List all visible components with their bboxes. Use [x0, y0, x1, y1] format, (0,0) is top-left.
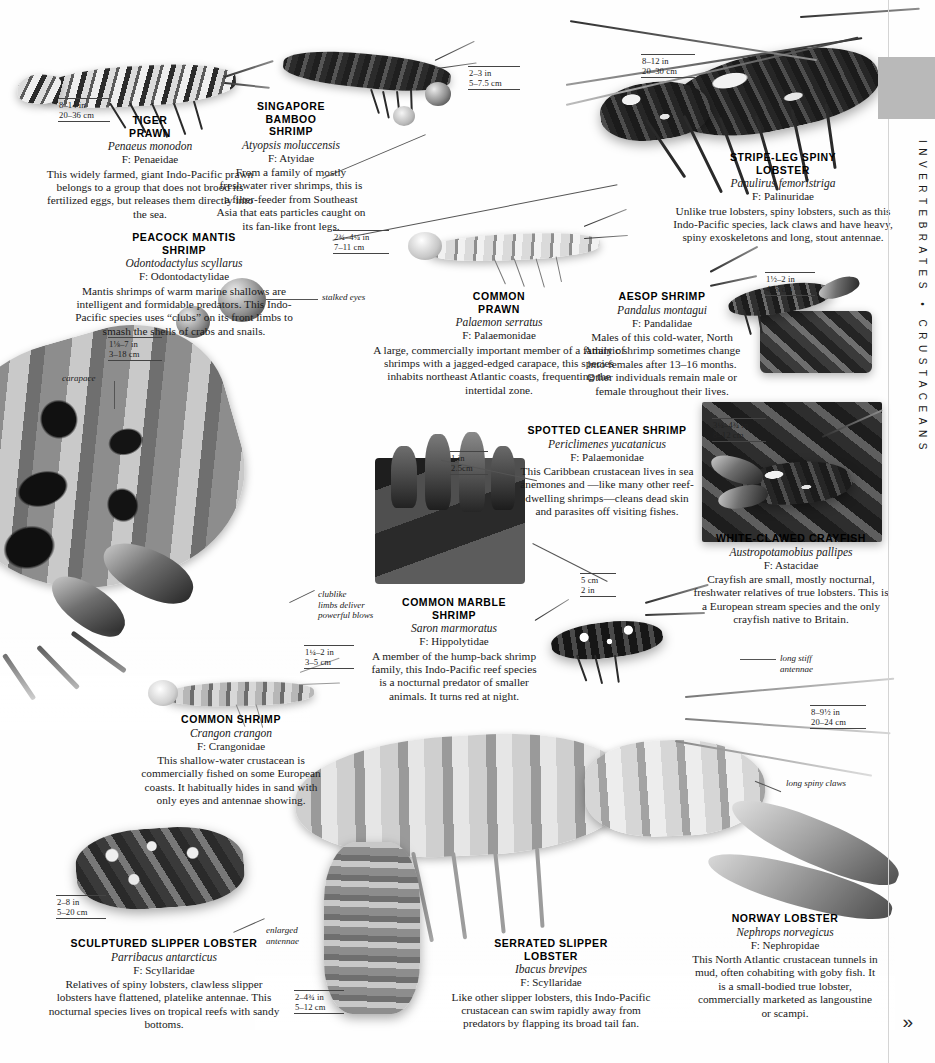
family-name: F: Odontodactylidae — [73, 270, 295, 283]
scale-singapore-bamboo-shrimp: 2–3 in 5–7.5 cm — [468, 66, 520, 90]
next-page-chevron-icon[interactable]: » — [902, 1012, 913, 1031]
entry-peacock-mantis-shrimp: PEACOCK MANTIS SHRIMP Odontodactylus scy… — [73, 231, 295, 338]
scale-metric: 5–20 cm — [56, 907, 106, 919]
scale-imperial: 2–8 in — [56, 896, 106, 907]
description: Unlike true lobsters, spiny lobsters, su… — [668, 205, 898, 245]
scale-metric: 20–24 cm — [810, 717, 866, 729]
entry-sculptured-slipper-lobster: SCULPTURED SLIPPER LOBSTER Parribacus an… — [48, 937, 280, 1032]
common-marble-shrimp-photo — [525, 600, 715, 690]
entry-aesop-shrimp: AESOP SHRIMP Pandalus montagui F: Pandal… — [578, 290, 746, 398]
scale-serrated-slipper-lobster: 2–4¾ in 5–12 cm — [294, 990, 344, 1014]
common-name: SCULPTURED SLIPPER LOBSTER — [48, 937, 280, 950]
family-name: F: Palaemonidae — [518, 451, 696, 464]
callout-carapace: carapace — [62, 373, 96, 384]
scientific-name: Odontodactylus scyllarus — [73, 257, 295, 270]
family-name: F: Scyllaridae — [48, 964, 280, 977]
scale-common-prawn: 2¾–4¼ in 7–11 cm — [333, 230, 389, 254]
callout-line: clublike — [318, 589, 373, 600]
scale-imperial: 1¼–2 in — [304, 646, 354, 657]
callout-line: long stiff — [780, 653, 813, 664]
scale-imperial: 8–14 in — [58, 99, 110, 110]
scale-common-shrimp: 1¼–2 in 3–5 cm — [304, 645, 354, 669]
scientific-name: Panulirus femoristriga — [668, 177, 898, 190]
common-name: SINGAPORE BAMBOO SHRIMP — [216, 100, 366, 138]
scale-white-clawed-crayfish: 3¼–4¾ in 8–12 cm — [712, 418, 766, 442]
common-name: STRIPE-LEG SPINY LOBSTER — [668, 151, 898, 176]
scientific-name: Atyopsis moluccensis — [216, 139, 366, 152]
callout-line: antennae — [780, 664, 813, 675]
callout-line: enlarged — [266, 925, 299, 936]
scale-metric: 2.5cm — [450, 463, 488, 475]
scale-stripe-leg-spiny-lobster: 8–12 in 20–30 cm — [641, 54, 695, 78]
description: From a family of mostly freshwater river… — [216, 166, 366, 233]
peacock-mantis-shrimp-photo — [0, 300, 310, 730]
entry-stripe-leg-spiny-lobster: STRIPE-LEG SPINY LOBSTER Panulirus femor… — [668, 151, 898, 245]
scale-imperial: 1½–2 in — [765, 273, 815, 284]
common-name: PEACOCK MANTIS SHRIMP — [73, 231, 295, 256]
callout-clublike-limbs: clublike limbs deliver powerful blows — [318, 589, 373, 621]
scale-imperial: 2–4¾ in — [294, 991, 344, 1002]
scientific-name: Periclimenes yucatanicus — [518, 438, 696, 451]
entry-spotted-cleaner-shrimp: SPOTTED CLEANER SHRIMP Periclimenes yuca… — [518, 424, 696, 519]
callout-long-spiny-claws: long spiny claws — [786, 778, 846, 789]
scientific-name: Nephrops norvegicus — [692, 926, 878, 939]
scientific-name: Ibacus brevipes — [448, 963, 654, 976]
callout-line: powerful blows — [318, 610, 373, 621]
scale-aesop-shrimp: 1½–2 in 4–5 cm — [765, 272, 815, 296]
scale-sculptured-slipper-lobster: 2–8 in 5–20 cm — [56, 895, 106, 919]
section-thumb-tab — [878, 57, 935, 119]
scale-spotted-cleaner-shrimp: 1 in 2.5cm — [450, 451, 488, 475]
scale-imperial: 8–12 in — [641, 55, 695, 66]
running-head: INVERTEBRATES • CRUSTACEANS — [917, 140, 928, 455]
leader-line-long-spiny-claws — [755, 781, 781, 792]
scale-imperial: 1⅛–7 in — [108, 338, 162, 349]
entry-serrated-slipper-lobster: SERRATED SLIPPER LOBSTER Ibacus brevipes… — [448, 937, 654, 1031]
common-name: COMMON SHRIMP — [140, 713, 322, 726]
common-name: COMMON MARBLE SHRIMP — [368, 596, 540, 621]
common-name: SPOTTED CLEANER SHRIMP — [518, 424, 696, 437]
scientific-name: Saron marmoratus — [368, 622, 540, 635]
callout-line: limbs deliver — [318, 600, 373, 611]
description: Mantis shrimps of warm marine shallows a… — [73, 285, 295, 339]
callout-line: long spiny claws — [786, 778, 846, 789]
entry-common-shrimp: COMMON SHRIMP Crangon crangon F: Crangon… — [140, 713, 322, 808]
encyclopedia-page: 8–14 in 20–36 cm 2–3 in 5–7.5 cm 8–12 in… — [0, 0, 935, 1063]
common-name: NORWAY LOBSTER — [692, 912, 878, 925]
family-name: F: Astacidae — [692, 559, 890, 572]
entry-white-clawed-crayfish: WHITE-CLAWED CRAYFISH Austropotamobius p… — [692, 532, 890, 627]
scale-metric: 4–5 cm — [765, 284, 815, 296]
common-prawn-photo — [398, 218, 628, 298]
description: This shallow-water crustacean is commerc… — [140, 754, 322, 808]
scientific-name: Pandalus montagui — [578, 304, 746, 317]
family-name: F: Nephropidae — [692, 939, 878, 952]
description: A member of the hump-back shrimp family,… — [368, 650, 540, 704]
description: This Caribbean crustacean lives in sea a… — [518, 465, 696, 519]
scientific-name: Crangon crangon — [140, 727, 322, 740]
description: Males of this cold-water, North Atlantic… — [578, 331, 746, 398]
leader-line-clublike-limbs — [289, 590, 315, 603]
leader-line-enlarged-antennae — [233, 918, 264, 933]
scale-imperial: 3¼–4¾ in — [712, 419, 766, 430]
family-name: F: Crangonidae — [140, 740, 322, 753]
family-name: F: Hippolytidae — [368, 635, 540, 648]
family-name: F: Atyidae — [216, 152, 366, 165]
scale-metric: 3–18 cm — [108, 349, 162, 361]
scale-metric: 8–12 cm — [712, 430, 766, 442]
family-name: F: Scyllaridae — [448, 976, 654, 989]
scale-imperial: 5 cm — [580, 574, 616, 585]
common-name: SERRATED SLIPPER LOBSTER — [448, 937, 654, 962]
scale-imperial: 8–9½ in — [810, 706, 866, 717]
callout-long-stiff-antennae: long stiff antennae — [780, 653, 813, 674]
callout-stalked-eyes: stalked eyes — [322, 292, 365, 303]
description: Relatives of spiny lobsters, clawless sl… — [48, 978, 280, 1032]
scale-metric: 5–7.5 cm — [468, 78, 520, 90]
leader-line-carapace — [114, 381, 115, 409]
scale-common-marble-shrimp: 5 cm 2 in — [580, 573, 616, 597]
entry-singapore-bamboo-shrimp: SINGAPORE BAMBOO SHRIMP Atyopsis molucce… — [216, 100, 366, 233]
family-name: F: Palinuridae — [668, 190, 898, 203]
callout-line: carapace — [62, 373, 96, 384]
scale-metric: 20–30 cm — [641, 66, 695, 78]
entry-norway-lobster: NORWAY LOBSTER Nephrops norvegicus F: Ne… — [692, 912, 878, 1020]
leader-line-long-stiff-antennae — [740, 659, 776, 660]
scale-metric: 2 in — [580, 585, 616, 597]
